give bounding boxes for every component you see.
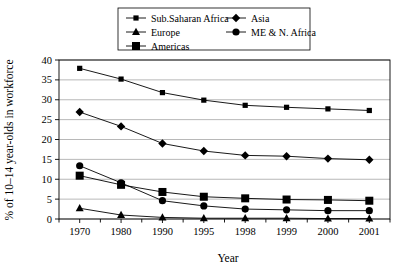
data-point bbox=[365, 197, 373, 205]
data-point bbox=[367, 108, 372, 113]
y-tick-label: 20 bbox=[42, 134, 53, 145]
data-point bbox=[242, 205, 249, 212]
data-point bbox=[324, 207, 331, 214]
data-point bbox=[118, 76, 123, 81]
x-tick-label: 1998 bbox=[235, 226, 256, 237]
legend-marker-icon bbox=[132, 42, 140, 50]
legend-item-label: ME & N. Africa bbox=[251, 27, 317, 38]
x-tick-label: 1999 bbox=[276, 226, 297, 237]
data-point bbox=[76, 172, 84, 180]
chart-legend: Sub.Saharan AfricaAsiaEuropeME & N. Afri… bbox=[118, 8, 317, 52]
data-point bbox=[158, 188, 166, 196]
data-point bbox=[283, 206, 290, 213]
legend-item-label: Europe bbox=[151, 27, 180, 38]
data-point bbox=[160, 90, 165, 95]
data-point bbox=[325, 106, 330, 111]
x-axis-title: Year bbox=[217, 252, 238, 264]
x-tick-label: 1990 bbox=[152, 226, 173, 237]
y-tick-label: 40 bbox=[42, 55, 53, 66]
y-tick-label: 0 bbox=[47, 214, 52, 225]
legend-item-label: Americas bbox=[151, 41, 189, 52]
chart-container: Sub.Saharan AfricaAsiaEuropeME & N. Afri… bbox=[0, 0, 406, 268]
data-point bbox=[77, 66, 82, 71]
data-point bbox=[241, 194, 249, 202]
y-tick-label: 25 bbox=[42, 114, 53, 125]
y-tick-label: 10 bbox=[42, 174, 53, 185]
y-tick-label: 5 bbox=[47, 194, 52, 205]
legend-marker-icon bbox=[133, 15, 138, 20]
y-tick-label: 35 bbox=[42, 74, 53, 85]
legend-item-americas[interactable]: Americas bbox=[126, 41, 189, 52]
x-tick-label: 1995 bbox=[193, 226, 214, 237]
x-tick-label: 2000 bbox=[317, 226, 338, 237]
data-point bbox=[200, 202, 207, 209]
legend-item-label: Asia bbox=[251, 13, 270, 24]
data-point bbox=[284, 105, 289, 110]
data-point bbox=[324, 196, 332, 204]
y-axis-title: % of 10–14 year-olds in workforce bbox=[3, 59, 16, 220]
data-point bbox=[200, 193, 208, 201]
x-tick-label: 1970 bbox=[69, 226, 90, 237]
legend-item-label: Sub.Saharan Africa bbox=[151, 13, 229, 24]
data-point bbox=[117, 179, 124, 186]
data-point bbox=[76, 162, 83, 169]
data-point bbox=[243, 103, 248, 108]
data-point bbox=[201, 98, 206, 103]
data-point bbox=[159, 197, 166, 204]
legend-marker-icon bbox=[232, 28, 239, 35]
data-point bbox=[283, 196, 291, 204]
y-tick-label: 30 bbox=[42, 94, 53, 105]
y-tick-label: 15 bbox=[42, 154, 53, 165]
data-point bbox=[366, 207, 373, 214]
x-tick-label: 1980 bbox=[111, 226, 132, 237]
line-chart: Sub.Saharan AfricaAsiaEuropeME & N. Afri… bbox=[0, 0, 406, 268]
x-tick-label: 2001 bbox=[359, 226, 380, 237]
